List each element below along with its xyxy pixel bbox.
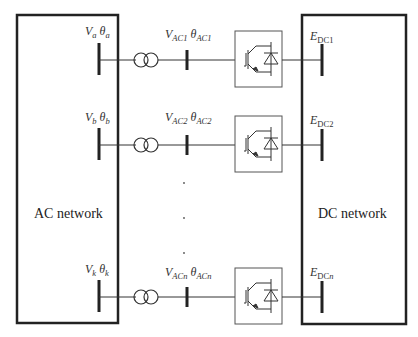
diagram-canvas — [0, 0, 418, 337]
ac-bus-label-k: Vk θk — [85, 262, 109, 278]
ellipsis-dots — [183, 182, 185, 254]
ac-network-label: AC network — [34, 206, 103, 222]
ac-bus-label-a: Va θa — [85, 24, 110, 40]
conv-ac-bus-label-1: VAC1 θAC1 — [165, 27, 212, 43]
ac-bus-label-b: Vb θb — [85, 110, 110, 126]
dc-bus-label-n: EDCn — [310, 265, 333, 281]
dc-network-label: DC network — [318, 206, 387, 222]
conv-ac-bus-label-2: VAC2 θAC2 — [165, 110, 212, 126]
conv-ac-bus-label-n: VACn θACn — [165, 265, 212, 281]
dc-bus-label-1: EDC1 — [310, 29, 333, 45]
dc-bus-label-2: EDC2 — [310, 113, 333, 129]
